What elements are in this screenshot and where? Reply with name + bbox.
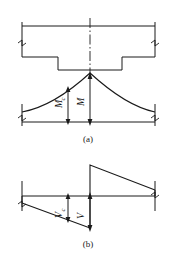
moment-critical-subscript: c [59,98,66,101]
shear-max-dimension [88,192,93,232]
shear-critical-label-group: V c [53,209,66,219]
moment-max-label-group: M [75,97,86,107]
break-symbol-left-moment [18,115,26,121]
break-symbol-right-moment [151,115,159,121]
moment-critical-dimension [66,86,71,125]
shear-critical-dimension [66,193,71,223]
beam-elevation-group [18,18,159,76]
break-symbol-left-beam [18,40,26,46]
shear-max-label-group: V [75,211,86,219]
break-symbol-right-beam [151,40,159,46]
shear-max-label: V [75,211,86,219]
shear-diagram-group: V c V [18,165,159,232]
caption-panel-b: (b) [83,239,94,249]
moment-max-dimension [88,72,93,126]
figure-root: M c M (a) [0,0,176,257]
moment-max-label: M [75,97,86,107]
shear-critical-subscript: c [59,209,66,212]
moment-diagram-group: M c M [18,72,159,126]
beam-bottom-stepped-profile [22,57,155,70]
caption-panel-a: (a) [83,134,93,144]
beam-diagram-svg: M c M (a) [0,0,176,257]
